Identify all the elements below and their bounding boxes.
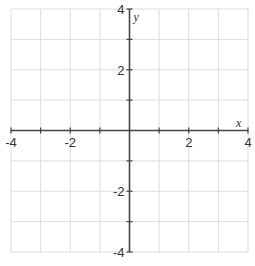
y-axis-label: y [133, 10, 140, 24]
axes [11, 9, 248, 252]
coordinate-plane: -4-22442-2-4 x y [0, 0, 255, 266]
x-tick-label: 4 [244, 135, 251, 150]
y-tick-label: 4 [117, 2, 124, 17]
y-tick-label: -2 [113, 184, 125, 199]
x-axis-label: x [235, 116, 242, 130]
x-tick-label: -4 [5, 135, 17, 150]
x-tick-label: -2 [64, 135, 76, 150]
y-tick-label: 2 [117, 63, 124, 78]
x-tick-label: 2 [185, 135, 192, 150]
y-tick-label: -4 [113, 245, 125, 260]
